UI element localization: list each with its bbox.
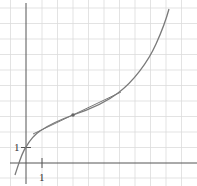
grid: [0, 0, 197, 186]
curve: [15, 9, 169, 175]
function-plot: 1 1: [0, 0, 197, 186]
y-tick-label-1: 1: [14, 141, 20, 153]
x-tick-label-1: 1: [39, 171, 45, 183]
tangent-point: [71, 113, 75, 117]
tangent-line: [33, 92, 121, 134]
